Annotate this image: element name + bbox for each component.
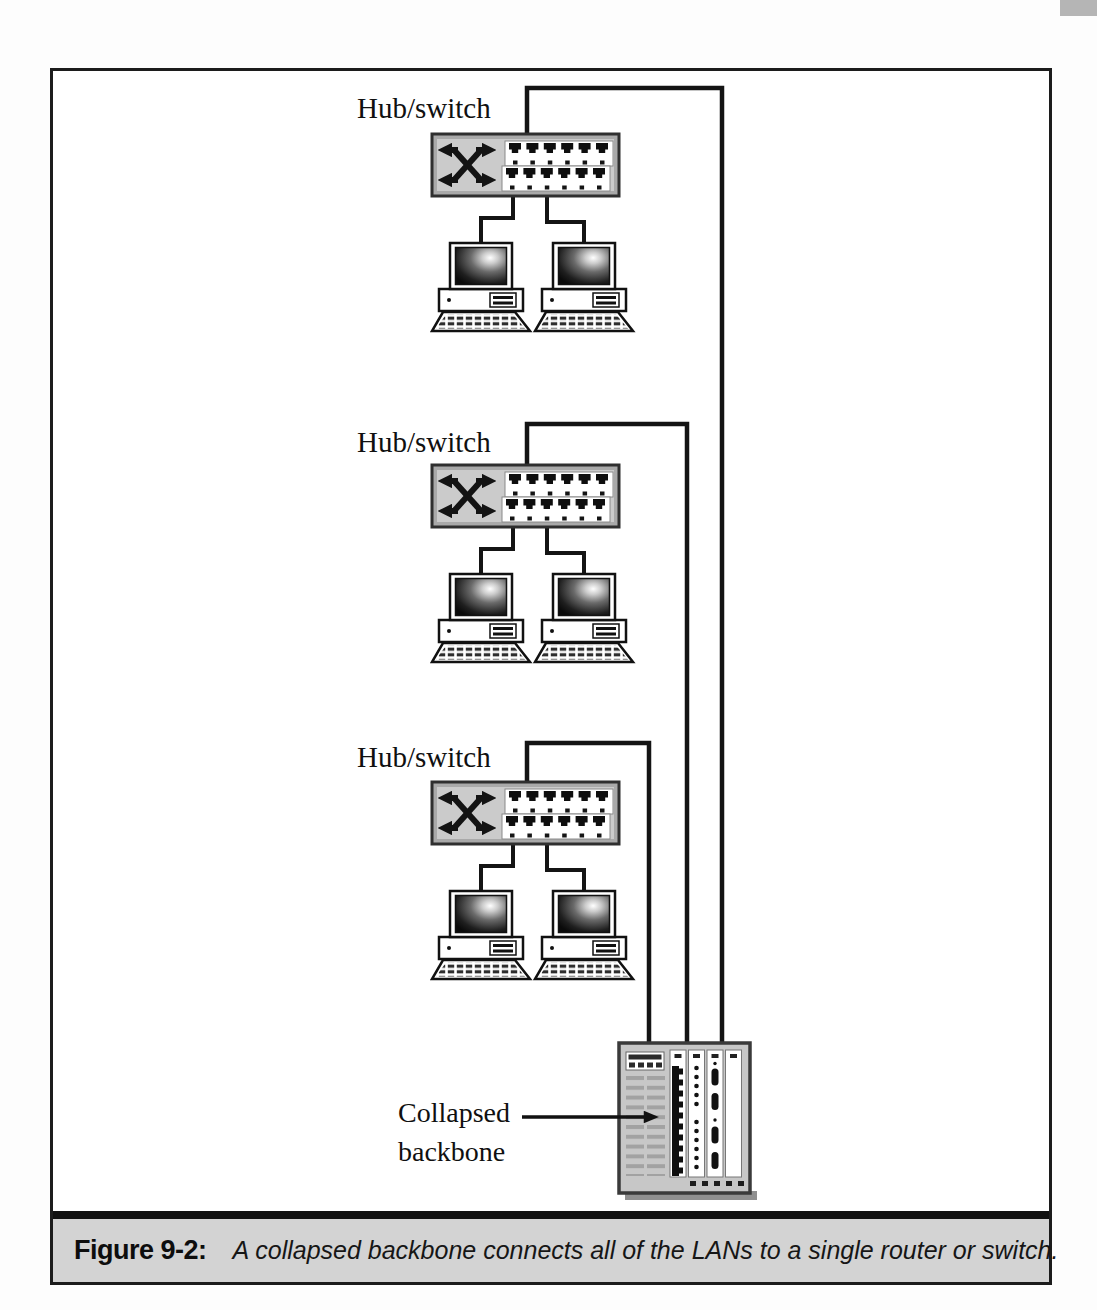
line-card-1 [670, 1050, 686, 1177]
backbone-label-line2: backbone [398, 1132, 510, 1171]
lan-group-2-hub-switch-and-pcs [432, 465, 633, 662]
line-card-2 [689, 1050, 705, 1177]
hub-label-1: Hub/switch [357, 92, 491, 125]
network-diagram [0, 0, 1097, 1310]
chassis-label-stripes [626, 1076, 665, 1176]
lan-group-3-hub-switch-and-pcs [432, 782, 633, 979]
collapsed-backbone-device [619, 1043, 757, 1200]
lan-group-1-hub-switch-and-pcs [432, 134, 633, 331]
backbone-label: Collapsed backbone [398, 1093, 510, 1171]
backbone-label-line1: Collapsed [398, 1093, 510, 1132]
chassis-display-panel [626, 1052, 664, 1070]
scanned-book-page: Figure 9-2: A collapsed backbone connect… [0, 0, 1097, 1310]
hub-label-2: Hub/switch [357, 426, 491, 459]
line-card-4-blank [726, 1050, 742, 1177]
line-card-3 [707, 1050, 723, 1177]
hub-label-3: Hub/switch [357, 741, 491, 774]
